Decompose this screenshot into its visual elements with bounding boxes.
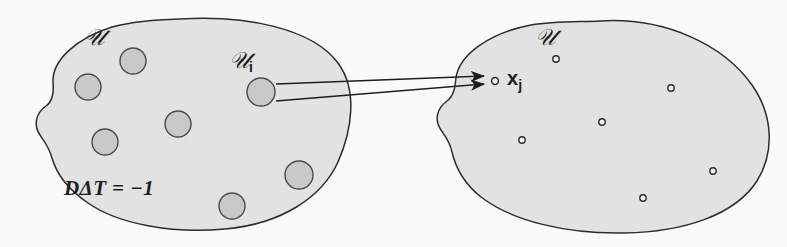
right-point-label: xj [507, 68, 522, 92]
right-set-label: 𝒰 [535, 26, 556, 49]
right-dot-6 [710, 168, 716, 174]
right-dot-7 [640, 195, 646, 201]
left-member-label: 𝒰i [229, 49, 253, 74]
left-circle-4 [165, 111, 191, 137]
right-dot-4 [599, 119, 605, 125]
left-circle-5 [92, 129, 118, 155]
right-dot-5 [519, 137, 525, 143]
left-circle-Ui [247, 78, 275, 106]
left-circle-1 [120, 48, 146, 74]
right-region-blob [437, 21, 769, 233]
diagram-svg [0, 0, 787, 247]
right-point-subscript: j [518, 77, 522, 93]
left-formula-label: DΔT = −1 [64, 178, 154, 199]
left-circle-7 [219, 193, 245, 219]
figure-canvas: 𝒰 𝒰i DΔT = −1 𝒰 xj [0, 0, 787, 247]
left-circle-6 [285, 161, 313, 189]
left-circle-2 [75, 74, 101, 100]
right-region-group [437, 21, 769, 233]
right-dot-3 [668, 85, 674, 91]
right-dot-2 [553, 56, 559, 62]
left-set-label: 𝒰 [84, 26, 105, 49]
right-dot-xj [492, 78, 499, 85]
left-member-subscript: i [249, 59, 253, 75]
